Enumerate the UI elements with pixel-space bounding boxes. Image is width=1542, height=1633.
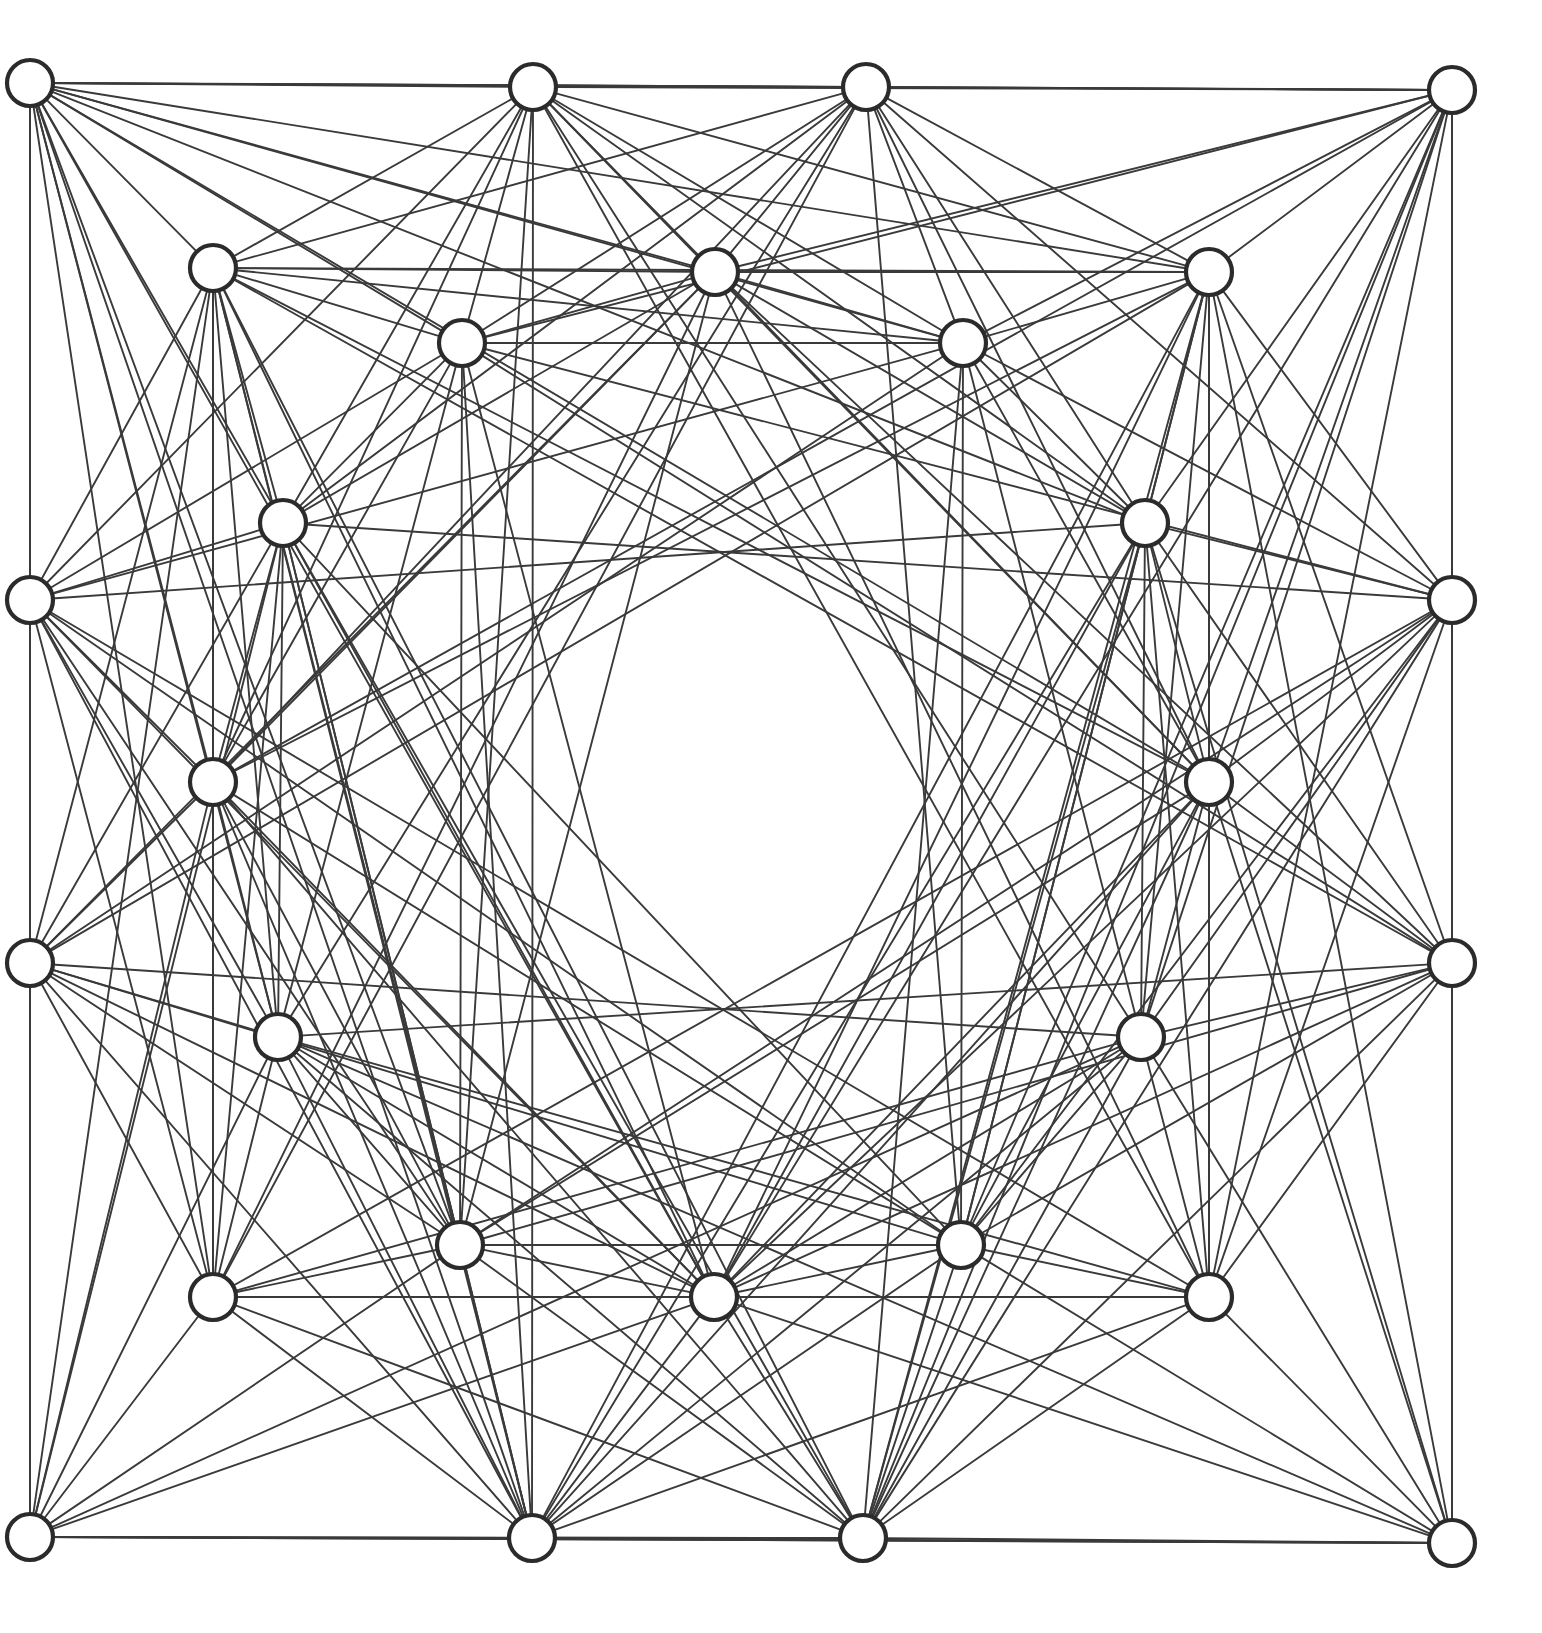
graph-node-inner-br-lower[interactable]: [1186, 1274, 1232, 1320]
graph-node-right-edge-lower[interactable]: [1429, 940, 1475, 986]
graph-node-left-edge-lower[interactable]: [7, 940, 53, 986]
graph-node-mid-right[interactable]: [1186, 759, 1232, 805]
graph-node-mid-lower-left[interactable]: [255, 1014, 301, 1060]
graph-node-bottom-edge-right[interactable]: [840, 1515, 886, 1561]
graph-node-mid-left[interactable]: [190, 759, 236, 805]
graph-node-mid-upper-left[interactable]: [260, 500, 306, 546]
graph-node-corner-bottom-right[interactable]: [1429, 1520, 1475, 1566]
graph-node-inner-bottom-left[interactable]: [437, 1222, 483, 1268]
graph-node-inner-bottom-right[interactable]: [938, 1222, 984, 1268]
graph-node-inner-top-left-low[interactable]: [439, 320, 485, 366]
diagram-canvas: [0, 0, 1542, 1633]
graph-node-inner-tl-upper[interactable]: [190, 245, 236, 291]
graph-node-inner-top-left-mid[interactable]: [692, 249, 738, 295]
graph-node-inner-bl-lower[interactable]: [190, 1274, 236, 1320]
graph-node-inner-top-right-low[interactable]: [940, 320, 986, 366]
graph-node-corner-top-left[interactable]: [7, 60, 53, 106]
graph-node-corner-bottom-left[interactable]: [7, 1514, 53, 1560]
graph-node-mid-lower-right[interactable]: [1118, 1014, 1164, 1060]
graph-node-top-edge-right[interactable]: [843, 64, 889, 110]
graph-node-mid-upper-right[interactable]: [1122, 500, 1168, 546]
graph-node-top-edge-left[interactable]: [510, 64, 556, 110]
graph-node-corner-top-right[interactable]: [1429, 67, 1475, 113]
graph-edge: [532, 109, 533, 1516]
graph-node-left-edge-upper[interactable]: [7, 577, 53, 623]
graph-svg: [0, 0, 1542, 1633]
graph-node-right-edge-upper[interactable]: [1429, 577, 1475, 623]
graph-node-bottom-edge-left[interactable]: [509, 1515, 555, 1561]
graph-node-inner-tr-upper[interactable]: [1186, 249, 1232, 295]
graph-node-inner-bottom-mid[interactable]: [691, 1274, 737, 1320]
